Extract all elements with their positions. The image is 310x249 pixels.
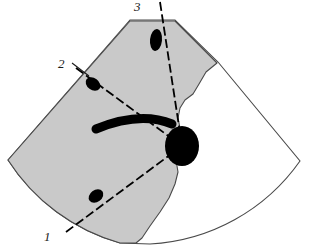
trajectory-label-3: 3 bbox=[134, 0, 141, 13]
ultrasound-figure: 1 2 3 bbox=[0, 0, 310, 249]
trajectory-label-1: 1 bbox=[44, 230, 51, 243]
target-lesion bbox=[165, 126, 199, 166]
trajectory-label-2: 2 bbox=[58, 57, 65, 70]
ultrasound-sector-diagram bbox=[0, 0, 310, 249]
